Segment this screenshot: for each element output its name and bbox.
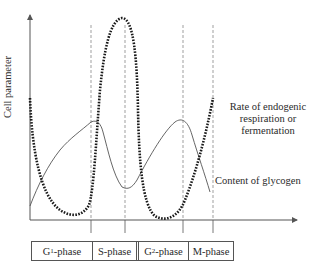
phase-m: M-phase [189, 242, 233, 260]
phase-g2-prefix: G [144, 246, 152, 257]
phase-g1: G1-phase [32, 242, 93, 260]
phase-ticks [91, 220, 213, 233]
respiration-curve-label: Rate of endogenic respiration or ferment… [218, 101, 318, 137]
phase-g2: G2-phase [138, 242, 189, 260]
phase-s: S-phase [93, 242, 137, 260]
respiration-label-line-1: Rate of endogenic [218, 101, 318, 113]
phase-s-label: S-phase [98, 246, 131, 257]
y-axis-label: Cell parameter [2, 56, 13, 118]
phase-g1-suffix: -phase [54, 246, 81, 257]
phase-m-label: M-phase [193, 246, 230, 257]
respiration-label-line-2: respiration or [218, 113, 318, 125]
respiration-curve [30, 18, 213, 219]
phase-g1-prefix: G [43, 246, 51, 257]
glycogen-curve-label: Content of glycogen [215, 175, 301, 187]
phase-bar: G1-phase S-phase G2-phase M-phase [31, 241, 234, 261]
phase-g2-suffix: -phase [155, 246, 182, 257]
respiration-label-line-3: fermentation [218, 125, 318, 137]
phase-boundaries [91, 25, 213, 220]
